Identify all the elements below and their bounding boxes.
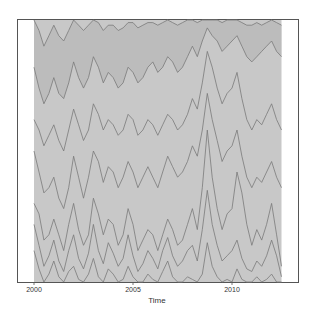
x-tick-label: 2000 (26, 286, 42, 293)
x-tick-label: 2005 (125, 286, 141, 293)
x-axis: 200020052010 (26, 282, 240, 293)
x-tick-label: 2010 (224, 286, 240, 293)
stacked-area-chart: 200020052010 Time (0, 0, 313, 324)
x-axis-title: Time (148, 296, 166, 305)
